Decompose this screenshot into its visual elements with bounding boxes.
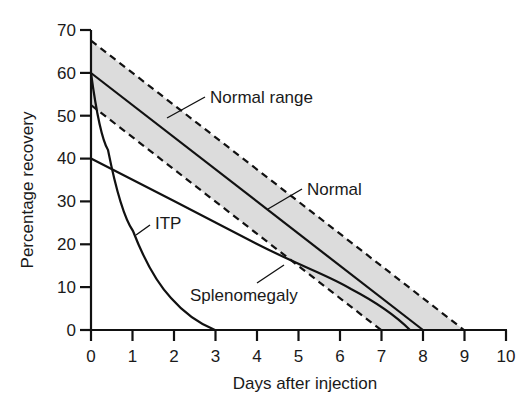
x-tick-1: 1	[128, 347, 137, 366]
x-tick-9: 9	[460, 347, 469, 366]
normal-label: Normal	[307, 180, 362, 199]
x-axis-label: Days after injection	[233, 374, 378, 393]
itp-leader	[136, 225, 150, 235]
y-tick-0: 0	[67, 321, 76, 340]
y-tick-10: 10	[57, 278, 76, 297]
y-tick-50: 50	[57, 107, 76, 126]
splenomegaly-label: Splenomegaly	[190, 286, 298, 305]
x-tick-labels: 0 1 2 3 4 5 6 7 8 9 10	[86, 347, 515, 366]
x-tick-0: 0	[86, 347, 95, 366]
y-tick-70: 70	[57, 21, 76, 40]
y-ticks	[80, 30, 91, 330]
y-tick-30: 30	[57, 192, 76, 211]
x-tick-10: 10	[497, 347, 516, 366]
x-tick-2: 2	[169, 347, 178, 366]
x-tick-5: 5	[294, 347, 303, 366]
x-ticks	[91, 330, 506, 341]
x-tick-6: 6	[335, 347, 344, 366]
x-tick-8: 8	[418, 347, 427, 366]
y-tick-40: 40	[57, 149, 76, 168]
normal-range-label: Normal range	[210, 88, 313, 107]
itp-label: ITP	[155, 214, 181, 233]
y-axis-label: Percentage recovery	[18, 111, 37, 268]
splenomegaly-leader	[257, 265, 284, 283]
x-tick-3: 3	[211, 347, 220, 366]
chart-canvas: 0 10 20 30 40 50 60 70 0 1 2 3 4 5 6 7 8…	[0, 0, 521, 410]
y-tick-labels: 0 10 20 30 40 50 60 70	[57, 21, 76, 340]
x-tick-7: 7	[377, 347, 386, 366]
y-tick-20: 20	[57, 235, 76, 254]
y-tick-60: 60	[57, 64, 76, 83]
x-tick-4: 4	[252, 347, 261, 366]
